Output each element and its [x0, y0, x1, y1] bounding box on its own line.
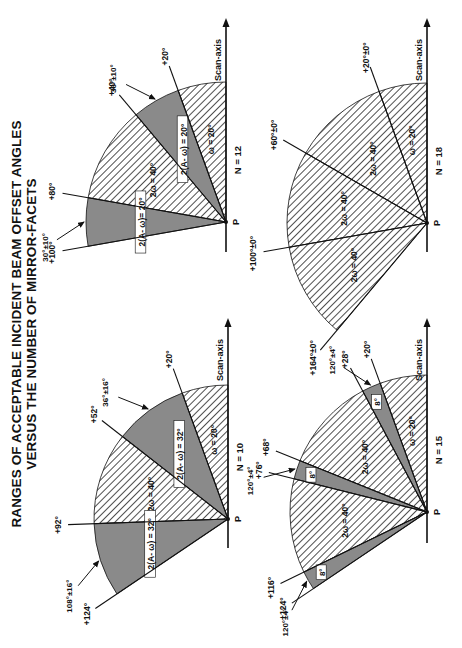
svg-text:+80°: +80° — [47, 182, 57, 200]
panel-n10: ω = 20°2(A- ω) = 32°2ω = 40°2(A- ω) = 32… — [53, 318, 245, 625]
pointer-arrow — [264, 469, 295, 477]
sector-label: 2ω = 40° — [339, 191, 349, 226]
ray-angle-label: +20° — [160, 47, 170, 65]
pointer-label: 108°±16° — [65, 580, 74, 613]
facet-count-label: N = 15 — [433, 435, 444, 464]
pointer-label: 120°±4° — [246, 467, 255, 496]
pointer-arrow — [57, 222, 84, 240]
origin-point — [425, 510, 429, 514]
panel-n15: ω = 20°8°2ω = 40°8°2ω = 40°8°+20°+28°+68… — [246, 318, 444, 637]
pointer-arrow — [118, 397, 148, 409]
svg-text:120°±4°: 120°±4° — [328, 346, 337, 375]
origin-label: P — [432, 220, 442, 226]
pointer-arrow — [344, 367, 371, 385]
panel-n12: ω = 20°2(A- ω) = 20°2ω = 40°2(A- ω)= 20°… — [41, 18, 243, 264]
scan-axis-arrow-icon — [225, 318, 232, 327]
ray-angle-label: +52° — [89, 405, 99, 423]
svg-text:30°±10°: 30°±10° — [109, 64, 118, 93]
ray-angle-label: +80° — [47, 182, 57, 200]
svg-text:P: P — [432, 220, 442, 226]
diagram-canvas: ω = 20°2(A- ω) = 20°2ω = 40°2(A- ω)= 20°… — [0, 0, 462, 648]
panel-n18: ω = 20°2ω = 40°2ω = 40°2ω = 40°+20°±0°+6… — [248, 18, 444, 375]
sector-label: 2(A- ω) = 32° — [174, 421, 185, 488]
ray-angle-label: +68° — [261, 438, 271, 456]
sector-label: 2ω = 40° — [349, 247, 359, 282]
ray-angle-label: +76° — [254, 461, 264, 479]
ray-angle-label: +164°±0° — [308, 340, 318, 376]
ray-angle-label: +124° — [82, 602, 92, 625]
pointer-arrow — [292, 582, 307, 611]
svg-text:+28°: +28° — [340, 350, 350, 368]
scan-axis-label: Scan-axis — [213, 39, 223, 81]
pointer-label: 36°±16° — [101, 378, 110, 407]
ray-angle-label: +20° — [362, 340, 372, 358]
pointer-label: 30°±10° — [41, 233, 50, 262]
origin-point — [224, 220, 228, 224]
pointer-arrow — [78, 561, 98, 586]
sector-label: ω = 20° — [407, 416, 417, 446]
origin-label: P — [231, 219, 241, 225]
scan-axis-label: Scan-axis — [414, 339, 424, 381]
svg-text:ω = 20°: ω = 20° — [209, 424, 219, 454]
svg-text:Scan-axis: Scan-axis — [213, 39, 223, 81]
svg-text:8°: 8° — [308, 471, 317, 479]
sector-label: 2ω = 40° — [368, 141, 378, 176]
svg-text:2(A- ω)= 20°: 2(A- ω)= 20° — [137, 197, 147, 247]
svg-text:+116°: +116° — [266, 576, 276, 599]
svg-text:Scan-axis: Scan-axis — [414, 39, 424, 81]
origin-point — [226, 517, 230, 521]
ray-angle-label: +28° — [340, 350, 350, 368]
svg-text:2ω = 40°: 2ω = 40° — [339, 191, 349, 226]
svg-text:N = 18: N = 18 — [433, 147, 444, 175]
svg-text:P: P — [231, 219, 241, 225]
ray-angle-label: +116° — [266, 576, 276, 599]
ray-angle-label: +20°±0° — [361, 42, 371, 73]
origin-point — [425, 221, 429, 225]
svg-text:Scan-axis: Scan-axis — [215, 339, 225, 381]
pointer-label: 30°±10° — [109, 64, 118, 93]
sector-label: 2ω = 40° — [360, 439, 370, 474]
svg-text:+20°: +20° — [160, 47, 170, 65]
svg-text:+124°: +124° — [82, 602, 92, 625]
svg-text:P: P — [432, 509, 442, 515]
svg-text:+164°±0°: +164°±0° — [308, 340, 318, 376]
sector-shade — [94, 519, 228, 594]
ray-angle-label: +92° — [53, 515, 63, 533]
svg-text:2(A- ω) = 32°: 2(A- ω) = 32° — [175, 428, 185, 480]
svg-text:+20°: +20° — [362, 340, 372, 358]
svg-text:30°±10°: 30°±10° — [41, 233, 50, 262]
origin-label: P — [233, 516, 243, 522]
svg-text:+100°±0°: +100°±0° — [248, 235, 258, 271]
facet-count-label: N = 18 — [433, 147, 444, 175]
svg-text:+20°: +20° — [164, 350, 174, 368]
svg-text:ω = 20°: ω = 20° — [407, 125, 417, 155]
svg-text:N = 12: N = 12 — [232, 146, 243, 174]
svg-text:2ω = 40°: 2ω = 40° — [349, 247, 359, 282]
sector-label: 2ω = 40° — [146, 476, 156, 511]
svg-text:2ω = 40°: 2ω = 40° — [146, 476, 156, 511]
svg-text:P: P — [233, 516, 243, 522]
svg-text:120°±4°: 120°±4° — [246, 467, 255, 496]
sector-label: 8° — [306, 467, 317, 482]
svg-text:+76°: +76° — [254, 461, 264, 479]
sector-label: ω = 20° — [407, 125, 417, 155]
scan-axis-arrow-icon — [223, 18, 230, 27]
svg-text:108°±16°: 108°±16° — [65, 580, 74, 613]
svg-text:ω = 20°: ω = 20° — [407, 416, 417, 446]
svg-text:2ω = 40°: 2ω = 40° — [368, 141, 378, 176]
scan-axis-arrow-icon — [424, 318, 431, 327]
facet-count-label: N = 10 — [234, 443, 245, 471]
origin-label: P — [432, 509, 442, 515]
svg-text:+68°: +68° — [261, 438, 271, 456]
svg-text:+20°±0°: +20°±0° — [361, 42, 371, 73]
sector-label: 2ω = 40° — [148, 162, 158, 197]
sector-label: 2(A- ω)= 20° — [135, 191, 146, 253]
sector-label: ω = 20° — [209, 424, 219, 454]
svg-text:ω = 20°: ω = 20° — [206, 124, 216, 154]
svg-text:+60°±0°: +60°±0° — [269, 119, 279, 150]
svg-text:8°: 8° — [373, 398, 382, 406]
svg-text:+92°: +92° — [53, 515, 63, 533]
svg-text:N = 15: N = 15 — [433, 435, 444, 464]
sector-label: 2(A- ω) = 32° — [145, 510, 156, 577]
svg-text:2(A- ω) = 32°: 2(A- ω) = 32° — [146, 518, 156, 570]
